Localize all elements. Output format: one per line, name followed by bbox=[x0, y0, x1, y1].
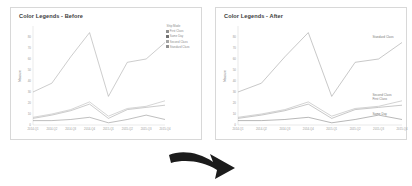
line-chart-before bbox=[33, 26, 165, 125]
series-line bbox=[238, 33, 402, 97]
inline-series-label: First Class bbox=[372, 97, 387, 101]
x-tick-label: 2014-Q4 bbox=[84, 127, 95, 131]
legend-item-label: Same Day bbox=[170, 34, 184, 38]
legend-entries: First ClassSame DaySecond ClassStandard … bbox=[166, 29, 198, 48]
y-tick-label: 60 bbox=[233, 57, 236, 61]
axis-lines-after bbox=[238, 26, 402, 125]
x-tick-label: 2014-Q4 bbox=[303, 127, 314, 131]
legend-item[interactable]: First Class bbox=[166, 29, 198, 33]
x-tick-label: 2014-Q1 bbox=[28, 127, 39, 131]
y-axis-title: Measure bbox=[18, 70, 22, 82]
x-tick-label: 2015-Q1 bbox=[103, 127, 114, 131]
x-tick-label: 2015-Q2 bbox=[350, 127, 361, 131]
legend-swatch-icon bbox=[166, 40, 169, 43]
chart-legend: Ship Mode First ClassSame DaySecond Clas… bbox=[166, 24, 198, 50]
chart-panel-after: Color Legends - After Measure 0102030405… bbox=[215, 7, 407, 140]
legend-item[interactable]: Same Day bbox=[166, 34, 198, 38]
inline-series-label: Standard Class bbox=[372, 35, 393, 39]
arrow-shape bbox=[169, 152, 235, 179]
x-tick-label: 2014-Q1 bbox=[233, 127, 244, 131]
series-line bbox=[33, 33, 165, 97]
series-group-before bbox=[33, 33, 165, 123]
y-tick-label: 20 bbox=[28, 101, 31, 105]
axis-lines bbox=[33, 26, 165, 125]
curved-down-right-arrow-icon bbox=[165, 146, 255, 182]
y-tick-label: 80 bbox=[28, 35, 31, 39]
legend-item-label: First Class bbox=[170, 29, 184, 33]
y-tick-label: 70 bbox=[28, 46, 31, 50]
y-tick-label: 50 bbox=[233, 68, 236, 72]
x-axis-before: 2014-Q12014-Q22014-Q32014-Q42015-Q12015-… bbox=[33, 127, 165, 136]
y-tick-label: 30 bbox=[28, 90, 31, 94]
x-tick-label: 2014-Q2 bbox=[256, 127, 267, 131]
series-group-after bbox=[238, 33, 402, 123]
chart-panel-before: Color Legends - Before Measure 010203040… bbox=[10, 7, 202, 140]
y-tick-label: 30 bbox=[233, 90, 236, 94]
inline-series-label: Second Class bbox=[372, 93, 391, 97]
x-tick-label: 2014-Q3 bbox=[279, 127, 290, 131]
series-line bbox=[33, 115, 165, 123]
x-tick-label: 2015-Q4 bbox=[397, 127, 408, 131]
inline-series-label: Same Day bbox=[372, 112, 386, 116]
legend-swatch-icon bbox=[166, 35, 169, 38]
legend-item[interactable]: Standard Class bbox=[166, 45, 198, 49]
y-axis-after: Measure 01020304050607080 bbox=[224, 26, 237, 125]
y-tick-label: 40 bbox=[28, 79, 31, 83]
x-tick-label: 2015-Q3 bbox=[141, 127, 152, 131]
x-tick-label: 2014-Q3 bbox=[65, 127, 76, 131]
y-axis-before: Measure 01020304050607080 bbox=[19, 26, 32, 125]
page-title: Color Legends - Before bbox=[19, 13, 83, 19]
x-tick-label: 2014-Q2 bbox=[46, 127, 57, 131]
x-tick-label: 2015-Q2 bbox=[122, 127, 133, 131]
y-tick-label: 10 bbox=[233, 112, 236, 116]
legend-item-label: Standard Class bbox=[170, 45, 190, 49]
y-tick-label: 80 bbox=[233, 35, 236, 39]
legend-item-label: Second Class bbox=[170, 40, 188, 44]
series-line bbox=[238, 115, 402, 123]
y-axis-title-after: Measure bbox=[223, 70, 227, 82]
legend-swatch-icon bbox=[166, 45, 169, 48]
x-tick-label: 2015-Q1 bbox=[326, 127, 337, 131]
page-title-after: Color Legends - After bbox=[224, 13, 283, 19]
figure-canvas: Color Legends - Before Measure 010203040… bbox=[0, 0, 412, 186]
y-tick-label: 10 bbox=[28, 112, 31, 116]
y-tick-label: 70 bbox=[233, 46, 236, 50]
legend-item[interactable]: Second Class bbox=[166, 40, 198, 44]
y-tick-label: 60 bbox=[28, 57, 31, 61]
plot-area-before bbox=[33, 26, 165, 125]
y-tick-label: 50 bbox=[28, 68, 31, 72]
y-tick-label: 20 bbox=[233, 101, 236, 105]
x-tick-label: 2015-Q3 bbox=[373, 127, 384, 131]
legend-title: Ship Mode bbox=[166, 24, 198, 28]
line-chart-after bbox=[238, 26, 402, 125]
x-tick-label: 2015-Q4 bbox=[160, 127, 171, 131]
y-tick-label: 40 bbox=[233, 79, 236, 83]
plot-area-after: Standard ClassSecond ClassFirst ClassSam… bbox=[238, 26, 402, 125]
x-axis-after: 2014-Q12014-Q22014-Q32014-Q42015-Q12015-… bbox=[238, 127, 402, 136]
legend-swatch-icon bbox=[166, 30, 169, 33]
